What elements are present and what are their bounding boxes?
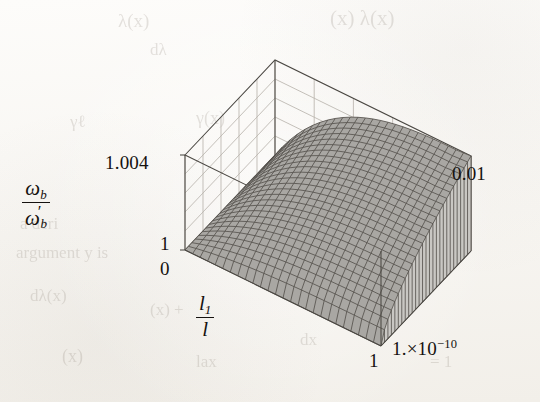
vertical-axis-title: ωb ω′b bbox=[22, 178, 50, 230]
horizontal-axis-title-numerator: l1 bbox=[196, 293, 214, 317]
horizontal-axis-title-denominator: l bbox=[196, 317, 214, 340]
figure-3d-surface-plot: (x) λ(x)λ(x)dλγ(x)γℓbandsiona deriargume… bbox=[0, 0, 540, 402]
horizontal-axis-tick-end: 1 bbox=[369, 350, 379, 372]
vertical-axis-title-numerator: ωb bbox=[22, 178, 50, 202]
depth-tick-mantissa: 1.×10 bbox=[392, 338, 437, 359]
depth-axis-tick-near: 1.×10−10 bbox=[392, 337, 457, 360]
depth-tick-exponent: −10 bbox=[437, 337, 457, 351]
left-wall-gridline bbox=[185, 79, 275, 174]
vertical-axis-title-denominator: ω′b bbox=[22, 202, 50, 230]
surface-mesh bbox=[185, 117, 471, 346]
depth-axis-tick-far: 0.01 bbox=[452, 163, 486, 185]
vertical-axis-tick-top: 1.004 bbox=[105, 152, 149, 174]
vertical-axis-tick-bottom: 1 bbox=[160, 233, 170, 255]
horizontal-axis-title: l1 l bbox=[196, 293, 214, 342]
horizontal-axis-tick-start: 0 bbox=[160, 258, 170, 280]
plot-canvas bbox=[0, 0, 540, 402]
